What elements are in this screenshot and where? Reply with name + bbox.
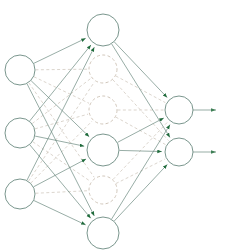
- edge-i1-h2: [36, 69, 88, 70]
- edge-h6-o1: [112, 125, 170, 219]
- edge-i1-h5: [29, 83, 94, 178]
- edge-i2-h1: [30, 45, 91, 121]
- hidden-node-4[interactable]: [87, 134, 119, 166]
- output-arrows-group: [193, 110, 216, 152]
- edge-i2-h4: [35, 136, 84, 146]
- input-node-1[interactable]: [5, 55, 35, 85]
- output-node-1[interactable]: [165, 96, 193, 124]
- input-node-2[interactable]: [5, 118, 35, 148]
- hidden-node-6[interactable]: [87, 217, 119, 249]
- edge-h5-o2: [116, 159, 165, 184]
- neural-network-diagram: [0, 0, 225, 251]
- input-node-3[interactable]: [5, 179, 35, 209]
- hidden-node-3[interactable]: [89, 96, 117, 124]
- dropped-edges-group: [29, 69, 169, 193]
- edge-h6-o2: [114, 165, 167, 221]
- edge-i3-h5: [35, 191, 87, 194]
- edge-h1-o2: [112, 44, 170, 137]
- edge-h4-o1: [118, 118, 164, 142]
- edge-i1-h1: [34, 38, 86, 63]
- edge-h2-o1: [116, 76, 166, 103]
- edge-i1-h3: [34, 77, 89, 104]
- hidden-node-5[interactable]: [89, 176, 117, 204]
- output-node-2[interactable]: [165, 138, 193, 166]
- edge-i1-h6: [27, 84, 94, 216]
- network-canvas: [0, 0, 225, 251]
- hidden-node-2[interactable]: [89, 55, 117, 83]
- edge-i2-h3: [35, 114, 88, 129]
- nodes-group: [5, 14, 193, 249]
- hidden-node-1[interactable]: [87, 14, 119, 46]
- edge-i3-h6: [34, 201, 86, 225]
